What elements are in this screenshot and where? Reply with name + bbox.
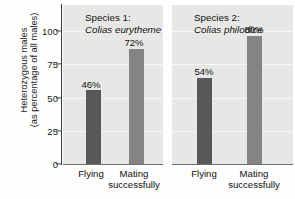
panel-1-caption-species: Species 1: (85, 12, 161, 24)
bar-value-species1-mating: 72% (114, 37, 154, 48)
x-label-species1-mating-line-2: successfully (98, 179, 170, 190)
y-tick-mark-25 (56, 131, 62, 132)
x-label-species1-mating: Mating successfully (98, 168, 170, 191)
x-label-species2-mating-line-2: successfully (218, 179, 290, 190)
bar-value-species2-mating: 80% (234, 24, 274, 35)
y-tick-label-75: 75 (32, 59, 58, 70)
panel-2-caption-species: Species 2: (194, 12, 263, 24)
x-label-species2-mating-line-1: Mating (218, 168, 290, 179)
gridline-25 (172, 131, 293, 132)
gridline-50 (63, 98, 163, 99)
y-tick-mark-100 (56, 30, 62, 31)
x-label-species1-mating-line-1: Mating (98, 168, 170, 179)
bar-species1-flying (86, 90, 101, 164)
bar-species2-flying (197, 78, 212, 164)
gridline-75 (63, 64, 163, 65)
y-tick-mark-50 (56, 97, 62, 98)
y-axis-title-line-1: Heterozygous males (19, 28, 29, 113)
y-tick-mark-75 (56, 64, 62, 65)
bar-species2-mating (247, 36, 262, 164)
gridline-25 (63, 131, 163, 132)
bar-value-species1-flying: 46% (71, 79, 111, 90)
panel-1-baseline (63, 164, 163, 165)
y-tick-mark-0 (56, 163, 62, 164)
bar-value-species2-flying: 54% (184, 66, 224, 77)
chart-panel-species-2: Species 2: Colias philodice (172, 5, 293, 165)
gridline-50 (172, 98, 293, 99)
y-tick-label-25: 25 (32, 126, 58, 137)
y-axis-tick-labels: 0 25 50 75 100 (30, 0, 58, 199)
y-tick-label-50: 50 (32, 92, 58, 103)
chart-figure: Heterozygous males (as percentage of all… (0, 0, 295, 199)
y-tick-label-100: 100 (32, 25, 58, 36)
panel-2-baseline (172, 164, 293, 165)
bar-species1-mating (129, 49, 144, 164)
panel-1-caption-binomial: Colias eurytheme (85, 24, 161, 36)
panel-1-caption: Species 1: Colias eurytheme (85, 12, 161, 36)
x-label-species2-mating: Mating successfully (218, 168, 290, 191)
